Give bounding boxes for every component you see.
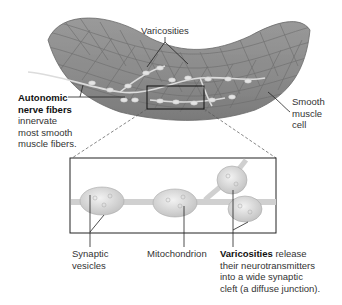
varicosities-inset-desc-2: their neurotransmitters [220,260,320,272]
varicosities-inset-desc-3: into a wide synaptic [220,271,320,283]
autonomic-bold-2: nerve fibers [18,104,77,116]
label-varicosities-release: Varicosities release their neurotransmit… [220,248,320,294]
varicosities-inset-desc-4: cleft (a diffuse junction). [220,283,320,295]
label-varicosities: Varicosities [141,25,189,36]
varicosities-inset-desc-1: release [273,248,307,259]
smooth-text-1: Smooth [292,96,325,108]
mitochondrion-text: Mitochondrion [147,248,207,259]
synaptic-text-2: vesicles [72,260,108,272]
smooth-text-2: muscle [292,108,325,120]
autonomic-desc-3: muscle fibers. [18,138,77,150]
synaptic-text-1: Synaptic [72,248,108,260]
label-synaptic-vesicles: Synaptic vesicles [72,248,108,271]
autonomic-desc-1: innervate [18,115,77,127]
smooth-text-3: cell [292,119,325,131]
label-mitochondrion: Mitochondrion [147,248,207,259]
autonomic-bold-1: Autonomic [18,92,77,104]
label-smooth-muscle-cell: Smooth muscle cell [292,96,325,131]
autonomic-desc-2: most smooth [18,127,77,139]
varicosities-inset-bold: Varicosities [220,248,273,259]
label-autonomic-nerve-fibers: Autonomic nerve fibers innervate most sm… [18,92,77,150]
varicosities-text: Varicosities [141,25,189,36]
